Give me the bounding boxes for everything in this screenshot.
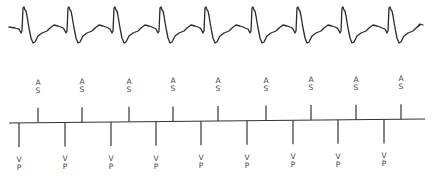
as-label-s: S bbox=[399, 82, 404, 91]
as-label-s: S bbox=[309, 83, 314, 92]
vp-label-p: P bbox=[63, 162, 68, 171]
diagram-canvas: ASASASASASASASASASVPVPVPVPVPVPVPVPVP bbox=[0, 0, 433, 178]
marker-channel: ASASASASASASASASASVPVPVPVPVPVPVPVPVP bbox=[9, 74, 425, 172]
as-label-s: S bbox=[216, 84, 221, 93]
as-label-s: S bbox=[354, 83, 359, 92]
vp-label-p: P bbox=[199, 161, 204, 170]
as-label-s: S bbox=[80, 85, 85, 94]
vp-label-p: P bbox=[109, 162, 114, 171]
ecg-waveform bbox=[9, 7, 423, 43]
as-label-s: S bbox=[264, 84, 269, 93]
as-label-s: S bbox=[171, 84, 176, 93]
marker-baseline bbox=[9, 119, 425, 123]
as-label-s: S bbox=[127, 85, 132, 94]
vp-label-p: P bbox=[245, 161, 250, 170]
vp-label-p: P bbox=[382, 159, 387, 168]
ecg-marker-diagram: ASASASASASASASASASVPVPVPVPVPVPVPVPVP bbox=[0, 0, 433, 178]
vp-label-p: P bbox=[291, 160, 296, 169]
as-label-s: S bbox=[36, 86, 41, 95]
ecg-trace bbox=[9, 7, 423, 43]
vp-label-p: P bbox=[336, 160, 341, 169]
vp-label-p: P bbox=[17, 163, 22, 172]
vp-label-p: P bbox=[154, 162, 159, 171]
